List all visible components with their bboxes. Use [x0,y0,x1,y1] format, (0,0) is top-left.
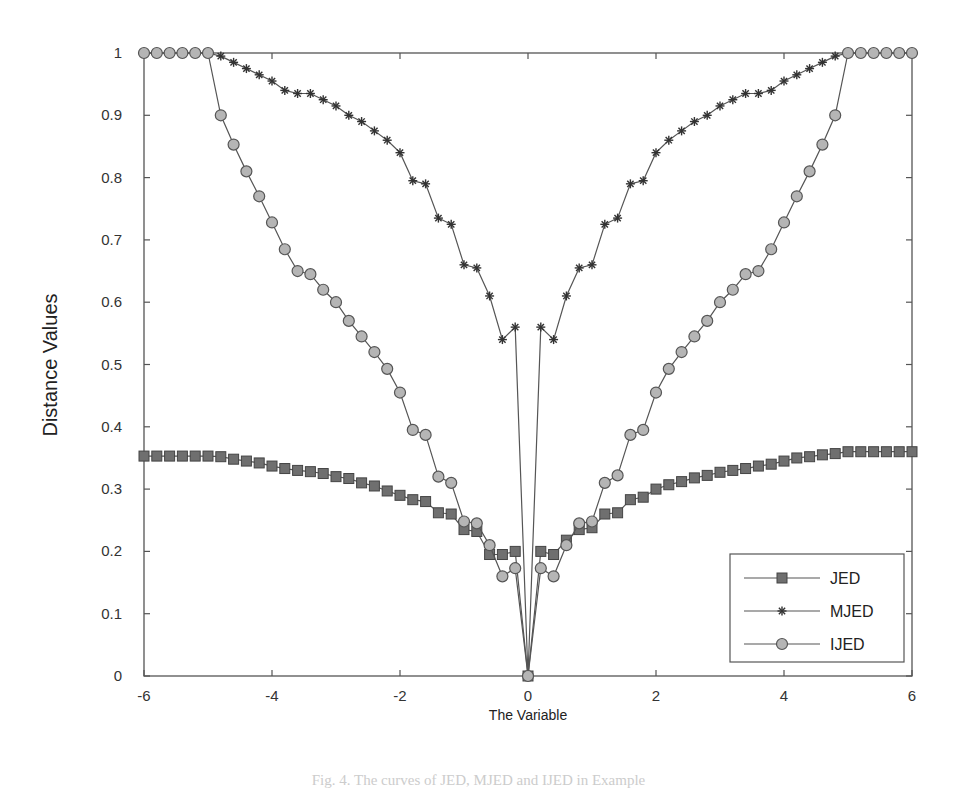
y-tick-label: 0.3 [101,480,122,497]
y-tick-label: 0.1 [101,605,122,622]
x-tick-label: -6 [137,687,150,704]
y-tick-label: 0.7 [101,231,122,248]
legend: JEDMJEDIJED [730,554,904,662]
x-tick-label: 2 [652,687,660,704]
y-tick-label: 1 [114,44,122,61]
x-tick-label: -2 [393,687,406,704]
y-tick-label: 0.6 [101,293,122,310]
legend-box [730,554,904,662]
y-axis-title: Distance Values [39,293,61,436]
x-tick-label: 4 [780,687,788,704]
y-tick-label: 0.8 [101,169,122,186]
x-tick-label: 0 [524,687,532,704]
y-tick-label: 0.5 [101,356,122,373]
legend-label: JED [830,570,860,587]
figure-caption: Fig. 4. The curves of JED, MJED and IJED… [0,772,957,789]
legend-label: MJED [830,603,874,620]
y-tick-label: 0.9 [101,106,122,123]
y-tick-label: 0.2 [101,542,122,559]
legend-label: IJED [830,636,865,653]
y-tick-label: 0.4 [101,418,122,435]
x-tick-label: -4 [265,687,278,704]
x-axis-title: The Variable [489,707,568,723]
x-tick-label: 6 [908,687,916,704]
y-tick-label: 0 [114,667,122,684]
